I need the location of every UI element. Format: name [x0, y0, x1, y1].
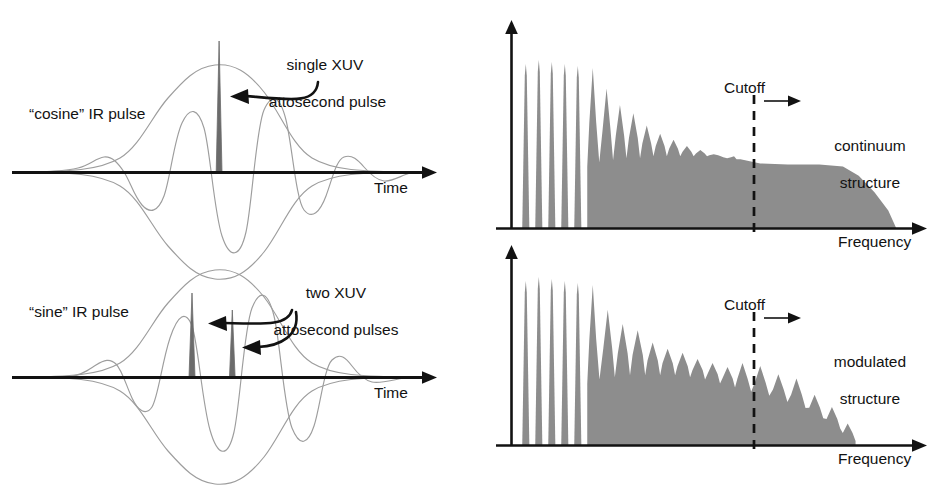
modulated-structure-line2: structure [840, 390, 900, 407]
frequency-axis-label: Frequency [838, 450, 911, 468]
cutoff-arrow [764, 313, 801, 324]
cosine-ir-pulse-panel: “cosine” IR pulse single XUV attosecond … [0, 0, 476, 250]
sine-ir-pulse-panel: “sine” IR pulse two XUV attosecond pulse… [0, 250, 476, 495]
continuum-structure-label: continuum structure [798, 119, 916, 210]
harmonic-peak [574, 66, 581, 228]
harmonic-peak [548, 279, 555, 445]
frequency-axis-label: Frequency [838, 233, 911, 251]
two-xuv-annotation-line2: attosecond pulses [273, 321, 398, 338]
sine-pulse-label: “sine” IR pulse [29, 303, 129, 321]
modulated-structure-label: modulated structure [798, 335, 916, 426]
envelope-lower [18, 377, 420, 484]
modulated-spectrum-panel: Cutoff modulated structure Frequency [476, 250, 952, 495]
harmonic-peak [561, 281, 568, 445]
harmonic-peak [522, 64, 529, 228]
single-xuv-annotation: single XUV attosecond pulse [243, 38, 381, 129]
cutoff-label: Cutoff [724, 296, 765, 314]
modulated-structure-line1: modulated [834, 353, 906, 370]
harmonic-peak [548, 62, 555, 228]
time-axis-label: Time [374, 384, 408, 402]
two-xuv-annotation: two XUV attosecond pulses [247, 266, 399, 357]
cosine-pulse-plot [0, 0, 476, 250]
time-axis-label: Time [374, 179, 408, 197]
harmonic-peak [574, 283, 581, 445]
continuum-structure-line2: structure [840, 174, 900, 191]
xuv-attosecond-pulse-spike [216, 41, 222, 172]
cosine-pulse-label: “cosine” IR pulse [29, 105, 145, 123]
two-xuv-annotation-line1: two XUV [306, 284, 366, 301]
cutoff-arrow [764, 96, 801, 107]
harmonic-peak [535, 277, 542, 445]
continuum-spectrum-panel: Cutoff continuum structure Frequency [476, 0, 952, 250]
harmonic-peak [522, 281, 529, 445]
attosecond-pulse-figure: “cosine” IR pulse single XUV attosecond … [0, 0, 952, 495]
harmonic-peak [561, 64, 568, 228]
continuum-structure-line1: continuum [834, 137, 906, 154]
xuv-attosecond-pulse-spike-2 [230, 310, 236, 377]
cutoff-label: Cutoff [724, 79, 765, 97]
harmonic-peak [535, 60, 542, 228]
single-xuv-annotation-line2: attosecond pulse [269, 93, 386, 110]
sine-pulse-plot [0, 250, 476, 495]
single-xuv-annotation-line1: single XUV [287, 56, 364, 73]
